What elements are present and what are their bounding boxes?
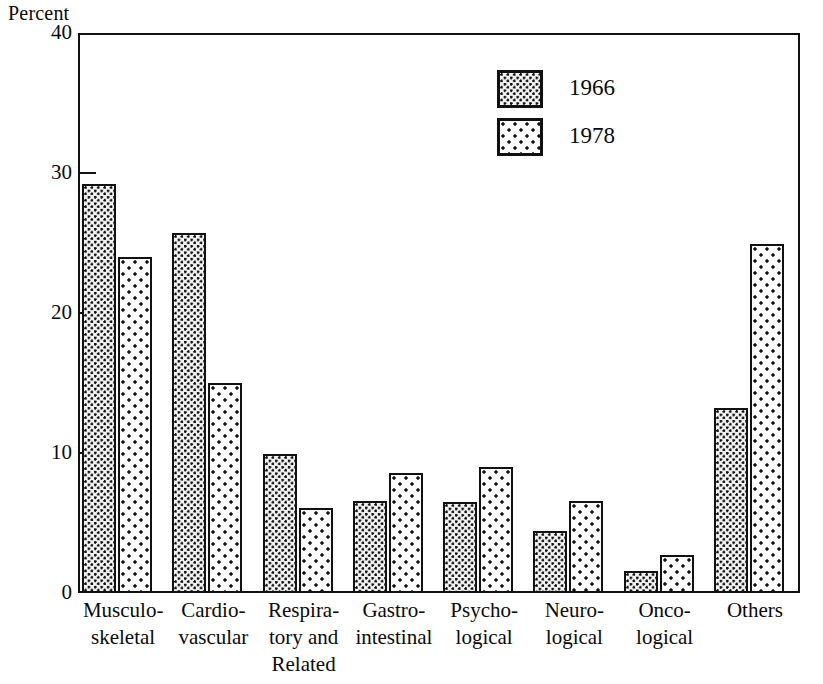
bar [263,454,297,593]
bar [479,467,513,593]
legend-item-1978: 1978 [497,116,667,164]
x-axis-label-line: Related [245,651,363,678]
bar [569,501,603,593]
legend-label-1978: 1978 [569,120,615,152]
bars-layer [78,33,800,593]
x-axis-label-line: Others [696,597,814,624]
bar [533,531,567,593]
legend-label-1966: 1966 [569,72,615,104]
bar-chart: Percent 010203040 1966 1978 Musculo-skel… [0,0,823,684]
bar [443,502,477,593]
y-tick-label: 30 [16,162,72,183]
bar [208,383,242,593]
x-axis-label: Others [696,597,814,624]
x-axis-labels: Musculo-skeletalCardio-vascularRespira-t… [78,597,800,683]
legend-item-1966: 1966 [497,68,667,116]
bar [624,571,658,593]
bar [118,257,152,593]
bar [353,501,387,593]
bar [660,555,694,593]
bar [750,244,784,593]
bar [299,508,333,593]
bar [82,184,116,593]
legend: 1966 1978 [497,68,667,164]
y-axis: 010203040 [0,0,72,684]
legend-swatch-1978-icon [497,118,543,156]
bar [172,233,206,593]
bar [389,473,423,593]
x-axis-label-line: logical [606,624,724,651]
y-tick-label: 10 [16,442,72,463]
y-tick-label: 20 [16,302,72,323]
legend-swatch-1966-icon [497,70,543,108]
bar [714,408,748,593]
y-tick-label: 40 [16,22,72,43]
